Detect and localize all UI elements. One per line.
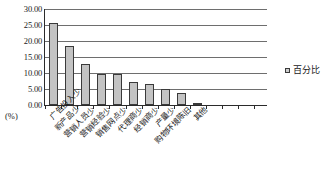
bar-slot	[174, 9, 190, 105]
y-axis-tick: 10.00	[0, 69, 42, 78]
legend-swatch-icon	[285, 68, 290, 73]
bar-slot	[142, 9, 158, 105]
bar-slot	[93, 9, 109, 105]
y-axis-tick: 5.00	[0, 85, 42, 94]
bar	[81, 64, 90, 105]
y-axis-tick: 30.00	[0, 5, 42, 14]
y-axis-tick: 25.00	[0, 21, 42, 30]
bar	[145, 84, 154, 105]
bar-slot	[125, 9, 141, 105]
bar	[97, 74, 106, 105]
bar	[129, 82, 138, 105]
bar	[49, 23, 58, 105]
bar	[177, 93, 186, 105]
y-axis-tick-labels: 30.0025.0020.0015.0010.005.000.00	[0, 9, 42, 105]
legend: 百分比	[285, 66, 320, 75]
y-axis-tick: 15.00	[0, 53, 42, 62]
legend-label: 百分比	[293, 66, 320, 75]
bar	[113, 74, 122, 105]
y-axis-unit-label: (%)	[5, 112, 18, 121]
bar-slot	[45, 9, 61, 105]
y-axis-tick: 0.00	[0, 101, 42, 110]
bar-slot	[158, 9, 174, 105]
bar	[161, 89, 170, 105]
y-axis-tick: 20.00	[0, 37, 42, 46]
bar-chart: 30.0025.0020.0015.0010.005.000.00 (%) 广告…	[0, 0, 336, 179]
bar-slot	[190, 9, 206, 105]
x-axis-category-labels: 广告投入少新产品少营销人员少营销经验少销售网点少代理商少经销商少产量少购物环境陈…	[44, 105, 274, 179]
bar-slot	[109, 9, 125, 105]
